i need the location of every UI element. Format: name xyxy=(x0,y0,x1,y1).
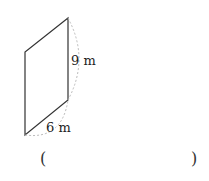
label-6m: 6 m xyxy=(46,120,71,135)
parallelogram xyxy=(25,18,68,135)
open-paren: ( xyxy=(40,149,46,168)
close-paren: ) xyxy=(191,149,197,168)
label-9m: 9 m xyxy=(71,53,96,68)
parallelogram-diagram: 9 m 6 m ( ) xyxy=(0,0,209,181)
